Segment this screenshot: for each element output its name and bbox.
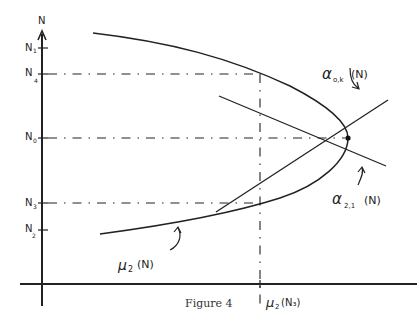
svg-text:μ: μ — [117, 257, 127, 273]
svg-text:4: 4 — [34, 77, 38, 84]
svg-text:2: 2 — [275, 303, 279, 311]
svg-text:N: N — [25, 67, 32, 78]
y-axis-label: N — [38, 15, 45, 26]
svg-text:α: α — [322, 65, 332, 83]
figure-caption: Figure 4 — [185, 297, 233, 310]
svg-text:2,1: 2,1 — [344, 202, 355, 210]
svg-text:(N): (N) — [351, 68, 368, 81]
diagram-svg: N N 1 N 4 N 0 N 3 N 2 μ 2 (N) α o,k (N) — [0, 0, 417, 333]
svg-text:2: 2 — [32, 232, 36, 239]
svg-text:N: N — [25, 131, 32, 142]
figure-4-diagram: N N 1 N 4 N 0 N 3 N 2 μ 2 (N) α o,k (N) — [0, 0, 417, 333]
label-n2: N 2 — [25, 223, 36, 239]
label-mu2-n: μ 2 (N) — [117, 257, 154, 274]
svg-text:(N): (N) — [137, 258, 154, 271]
label-n0: N 0 — [25, 131, 37, 144]
svg-text:μ: μ — [265, 295, 274, 310]
label-alpha-21-n: α 2,1 (N) — [332, 190, 381, 210]
arrow-alpha-21-icon — [358, 167, 365, 185]
svg-text:α: α — [332, 190, 342, 208]
label-n1: N 1 — [25, 42, 37, 54]
svg-text:3: 3 — [33, 203, 37, 210]
svg-text:(N₃): (N₃) — [281, 297, 300, 308]
svg-text:N: N — [25, 42, 32, 53]
arrow-mu2-icon — [170, 227, 181, 250]
label-x-mu2-n3: μ 2 (N₃) — [265, 295, 300, 311]
svg-text:N: N — [25, 197, 32, 208]
pointer-arrows — [170, 68, 365, 250]
intersection-point — [345, 135, 350, 140]
label-n4: N 4 — [25, 67, 38, 84]
svg-text:1: 1 — [33, 47, 37, 54]
svg-text:2: 2 — [128, 265, 133, 274]
label-n3: N 3 — [25, 197, 37, 210]
label-alpha-ok-n: α o,k (N) — [322, 65, 368, 84]
svg-text:o,k: o,k — [333, 76, 345, 84]
svg-text:0: 0 — [33, 137, 37, 144]
svg-text:(N): (N) — [364, 194, 381, 207]
